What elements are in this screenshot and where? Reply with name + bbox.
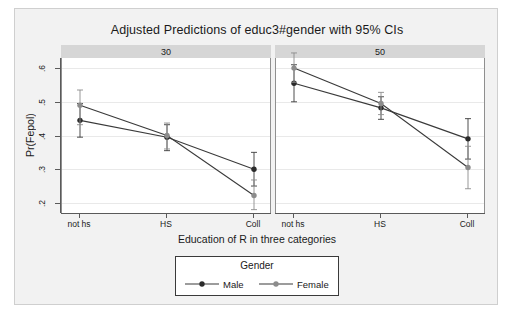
x-axis-tick	[380, 214, 381, 218]
x-axis-tick-label: not hs	[281, 219, 304, 229]
y-axis-tick	[55, 102, 60, 103]
data-point-female	[164, 133, 169, 138]
x-axis-tick	[79, 214, 80, 218]
x-axis-50	[275, 213, 485, 218]
data-point-female	[77, 102, 82, 107]
series-canvas-30	[62, 58, 272, 213]
y-axis-tick	[55, 169, 60, 170]
data-point-female	[291, 65, 296, 70]
x-axis-tick	[467, 214, 468, 218]
x-axis-title: Education of R in three categories	[15, 233, 499, 245]
y-axis-tick-label: .2	[35, 195, 49, 211]
legend-entry-male[interactable]: Male	[185, 277, 244, 291]
x-axis-tick	[293, 214, 294, 218]
legend-female-icon	[259, 277, 293, 291]
y-axis-tick-label: .4	[35, 128, 49, 144]
x-axis-tick-label: HS	[374, 219, 386, 229]
x-axis-tick	[166, 214, 167, 218]
panel-header-50: 50	[275, 45, 485, 58]
data-point-female	[251, 193, 256, 198]
plot-panel-30	[61, 58, 271, 213]
y-axis-tick-label: .3	[35, 161, 49, 177]
legend-label-male: Male	[223, 279, 244, 290]
x-axis-tick	[253, 214, 254, 218]
x-axis-tick-label: Coll	[246, 219, 261, 229]
legend: Gender Male Female	[175, 256, 339, 296]
legend-label-female: Female	[297, 279, 329, 290]
x-axis-tick-label: not hs	[67, 219, 90, 229]
y-axis-tick	[55, 203, 60, 204]
chart-title: Adjusted Predictions of educ3#gender wit…	[15, 23, 499, 37]
legend-marker-female	[259, 277, 293, 291]
x-axis-30	[61, 213, 271, 218]
data-point-female	[465, 165, 470, 170]
data-point-female	[378, 101, 383, 106]
legend-male-icon	[185, 277, 219, 291]
panel-header-50-label: 50	[375, 47, 385, 57]
x-axis-tick-label: Coll	[460, 219, 475, 229]
data-point-male	[465, 136, 470, 141]
data-point-male	[251, 166, 256, 171]
x-axis-tick-label: HS	[160, 219, 172, 229]
panel-header-30: 30	[61, 45, 271, 58]
legend-marker-male	[185, 277, 219, 291]
y-axis-tick	[55, 68, 60, 69]
y-axis-tick-label: .5	[35, 94, 49, 110]
y-axis-tick-label: .6	[35, 60, 49, 76]
y-axis-tick	[55, 136, 60, 137]
panel-header-30-label: 30	[161, 47, 171, 57]
chart-figure: Adjusted Predictions of educ3#gender wit…	[14, 8, 498, 305]
plot-panel-50	[275, 58, 485, 213]
legend-entry-female[interactable]: Female	[259, 277, 329, 291]
legend-title: Gender	[176, 260, 338, 271]
series-canvas-50	[276, 58, 486, 213]
